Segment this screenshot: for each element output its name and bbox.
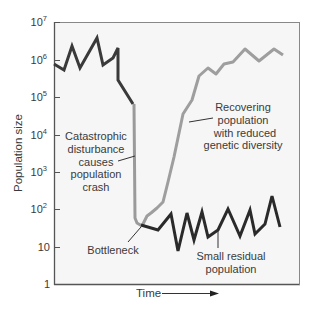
- y-tick-labels: 107 106 105 104 103 102 10 1: [31, 14, 50, 290]
- y-tick-1e5: 105: [31, 89, 47, 103]
- svg-text:Recovering: Recovering: [215, 101, 271, 113]
- annotation-residual: Small residual population: [196, 250, 265, 275]
- svg-text:with reduced: with reduced: [213, 127, 276, 139]
- x-axis-title: Time: [136, 287, 161, 299]
- y-tick-1e7: 107: [31, 14, 47, 28]
- y-tick-1e6: 106: [31, 52, 47, 66]
- svg-text:population: population: [206, 263, 257, 275]
- time-arrow-icon: [162, 291, 219, 297]
- svg-text:population: population: [218, 114, 269, 126]
- svg-text:Small residual: Small residual: [196, 250, 265, 262]
- y-axis-title: Population size: [12, 114, 24, 192]
- y-tick-10: 10: [38, 241, 50, 253]
- y-tick-1e2: 102: [31, 201, 47, 215]
- population-bottleneck-chart: 107 106 105 104 103 102 10 1 Population …: [0, 0, 314, 309]
- y-tick-1: 1: [44, 278, 50, 290]
- svg-text:genetic diversity: genetic diversity: [204, 139, 283, 151]
- y-tick-1e4: 104: [31, 127, 47, 141]
- y-tick-1e3: 103: [31, 164, 47, 178]
- svg-text:Catastrophic: Catastrophic: [65, 130, 127, 142]
- annotation-bottleneck: Bottleneck: [87, 244, 139, 256]
- svg-text:crash: crash: [83, 181, 110, 193]
- svg-text:disturbance: disturbance: [68, 143, 125, 155]
- svg-text:causes: causes: [79, 156, 114, 168]
- svg-text:population: population: [71, 168, 122, 180]
